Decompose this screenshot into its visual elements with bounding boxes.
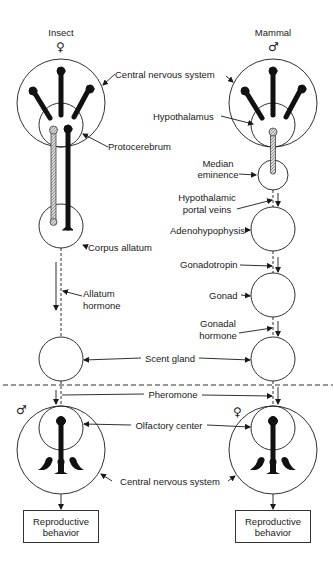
label-allatum-hormone-2: hormone [83, 300, 121, 311]
mammal-gonad-circle [251, 273, 295, 317]
mammal-scent-gland-circle [251, 337, 295, 381]
label-allatum-hormone-1: Allatum [83, 288, 115, 299]
label-hypothalamic-portal-veins-1: Hypothalamic [172, 192, 242, 203]
label-corpus-allatum: Corpus allatum [88, 242, 152, 253]
male-symbol-icon: ♂ [16, 404, 27, 416]
label-scent-gland: Scent gland [142, 353, 198, 364]
box-line-2: behavior [255, 527, 291, 538]
label-gonadal-hormone-1: Gonadal [193, 318, 243, 329]
insect-corpus-allatum-circle [39, 204, 83, 248]
label-median-eminence-1: Median [193, 158, 243, 169]
label-protocerebrum: Protocerebrum [108, 141, 171, 152]
label-adenohypophysis: Adenohypophysis [160, 225, 245, 236]
mammal-title: Mammal [248, 27, 298, 38]
mammal-adenohypophysis-circle [251, 207, 295, 251]
label-gonadotropin: Gonadotropin [180, 259, 238, 270]
box-line-2: behavior [43, 527, 79, 538]
label-gonad: Gonad [209, 290, 238, 301]
label-olfactory-center: Olfactory center [131, 420, 207, 431]
mammal-reproductive-behavior-box: Reproductive behavior [235, 510, 311, 543]
female-symbol-icon: ♀ [56, 41, 65, 53]
insect-scent-gland-circle [39, 337, 83, 381]
label-pheromone: Pheromone [144, 389, 202, 400]
female-symbol-icon: ♀ [233, 406, 242, 418]
insect-title: Insect [41, 27, 81, 38]
male-symbol-icon: ♂ [268, 41, 279, 53]
insect-reproductive-behavior-box: Reproductive behavior [23, 510, 99, 543]
label-central-nervous-system-top: Central nervous system [115, 69, 215, 80]
box-line-1: Reproductive [33, 516, 89, 527]
label-gonadal-hormone-2: hormone [193, 330, 243, 341]
box-line-1: Reproductive [245, 516, 301, 527]
label-central-nervous-system-bottom: Central nervous system [112, 476, 228, 487]
label-hypothalamus: Hypothalamus [153, 111, 214, 122]
label-hypothalamic-portal-veins-2: portal veins [172, 204, 242, 215]
label-median-eminence-2: eminence [193, 169, 243, 180]
